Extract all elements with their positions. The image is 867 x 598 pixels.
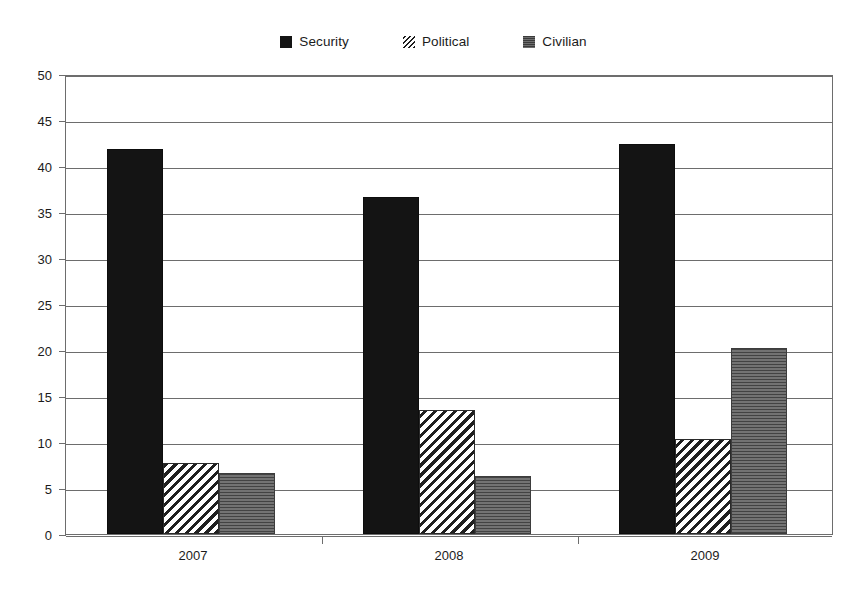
bar-political-2008 [419, 410, 475, 534]
y-tick-label-35: 35 [12, 206, 52, 221]
category-separator-2 [578, 536, 579, 544]
bars-layer [66, 76, 832, 534]
y-tick-label-0: 0 [12, 528, 52, 543]
chart-legend: Security Political Civilian [0, 34, 867, 49]
bar-political-2007 [163, 463, 219, 534]
legend-label-political: Political [422, 34, 469, 49]
y-axis: 05101520253035404550 [0, 0, 58, 598]
bar-civilian-2008 [475, 476, 531, 534]
bar-political-2009 [675, 439, 731, 534]
bar-chart: Security Political Civilian 051015202530… [0, 0, 867, 598]
bar-security-2008 [363, 197, 419, 534]
x-tick-label-2009: 2009 [691, 548, 720, 563]
x-tick-label-2007: 2007 [179, 548, 208, 563]
category-separator-1 [322, 536, 323, 544]
bar-security-2007 [107, 149, 163, 534]
bar-civilian-2009 [731, 348, 787, 534]
bar-security-2009 [619, 144, 675, 534]
y-tick-label-25: 25 [12, 298, 52, 313]
legend-item-security: Security [280, 34, 349, 49]
y-tick-label-15: 15 [12, 390, 52, 405]
legend-label-civilian: Civilian [542, 34, 586, 49]
legend-swatch-security-icon [280, 36, 292, 48]
legend-item-civilian: Civilian [523, 34, 586, 49]
legend-swatch-political-icon [403, 36, 415, 48]
y-tick-label-45: 45 [12, 114, 52, 129]
y-tick-label-50: 50 [12, 68, 52, 83]
bar-civilian-2007 [219, 473, 275, 534]
x-tick-label-2008: 2008 [435, 548, 464, 563]
legend-swatch-civilian-icon [523, 36, 535, 48]
y-tick-label-20: 20 [12, 344, 52, 359]
y-tick-label-10: 10 [12, 436, 52, 451]
legend-label-security: Security [299, 34, 349, 49]
plot-area [65, 75, 833, 535]
legend-item-political: Political [403, 34, 469, 49]
x-axis: 200720082009 [65, 548, 833, 574]
y-tick-mark-0 [59, 535, 66, 536]
y-tick-label-40: 40 [12, 160, 52, 175]
y-tick-label-30: 30 [12, 252, 52, 267]
gridline-0 [66, 536, 832, 537]
y-tick-label-5: 5 [12, 482, 52, 497]
